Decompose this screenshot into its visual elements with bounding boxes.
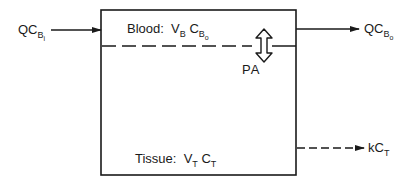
inflow-prefix: QC — [18, 22, 38, 37]
outflow-label: QCBo — [364, 22, 393, 35]
tissue-label: Tissue: — [135, 151, 176, 166]
inflow-subscript: Bi — [38, 30, 46, 40]
blood-volume-symbol: V — [171, 21, 180, 36]
blood-region-label: Blood: VB CBo — [127, 22, 209, 35]
outflow-subsubscript: o — [390, 34, 394, 41]
blood-conc-subscript: Bo — [199, 29, 209, 39]
outflow-prefix: QC — [364, 21, 384, 36]
inflow-subscript-text: B — [38, 30, 44, 40]
blood-conc-subsubscript: o — [205, 34, 209, 41]
blood-label: Blood: — [127, 21, 164, 36]
elimination-label: kCT — [368, 141, 389, 154]
blood-conc-symbol: C — [189, 21, 198, 36]
tissue-conc-symbol: C — [201, 151, 210, 166]
outflow-subscript: Bo — [384, 29, 394, 39]
inflow-subsubscript: i — [44, 35, 46, 42]
elimination-prefix: kC — [368, 140, 384, 155]
tissue-region-label: Tissue: VT CT — [135, 152, 216, 165]
exchange-label: PA — [242, 63, 260, 76]
exchange-double-arrow-icon — [256, 29, 272, 62]
blood-volume-subscript: B — [180, 29, 186, 39]
elimination-subscript: T — [384, 148, 390, 158]
tissue-conc-subscript: T — [211, 159, 217, 169]
inflow-label: QCBi — [18, 23, 45, 36]
tissue-volume-subscript: T — [192, 159, 198, 169]
blood-conc-subscript-text: B — [199, 29, 205, 39]
outflow-subscript-text: B — [384, 29, 390, 39]
